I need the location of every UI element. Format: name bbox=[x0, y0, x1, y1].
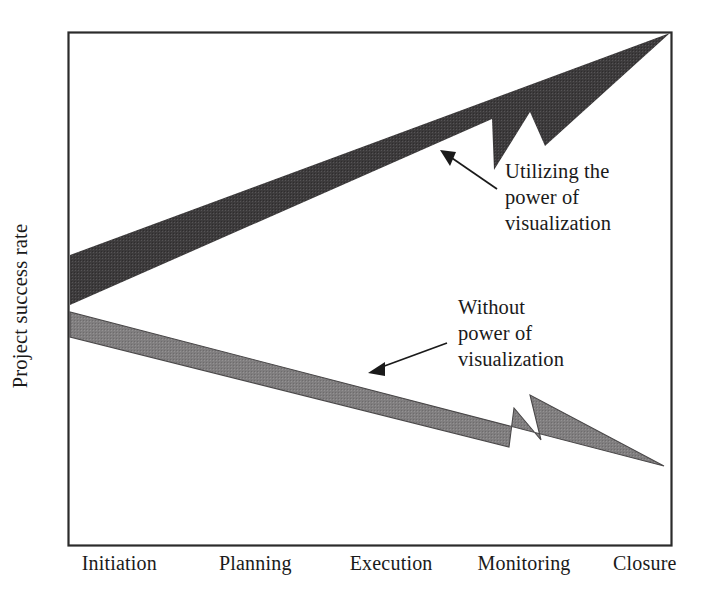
annotation-utilizing-label: Utilizing the power of visualization bbox=[505, 158, 611, 236]
x-tick-label-initiation: Initiation bbox=[82, 552, 157, 575]
chart-figure: Utilizing the power of visualization Wit… bbox=[0, 0, 703, 612]
annotation-without-label: Without power of visualization bbox=[458, 294, 564, 372]
chart-canvas bbox=[0, 0, 703, 612]
x-tick-label-closure: Closure bbox=[613, 552, 677, 575]
x-tick-label-execution: Execution bbox=[350, 552, 433, 575]
x-tick-label-monitoring: Monitoring bbox=[477, 552, 570, 575]
x-tick-label-planning: Planning bbox=[219, 552, 292, 575]
x-axis-tick-labels: Initiation Planning Execution Monitoring… bbox=[68, 552, 672, 582]
